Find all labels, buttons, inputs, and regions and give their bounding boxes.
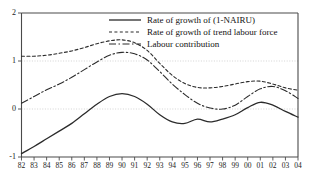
legend-line-dashdot-icon (108, 39, 142, 49)
legend-line-solid-icon (108, 15, 142, 25)
y-tick-label: 1 (2, 57, 16, 65)
legend-item-trend-labour-force: Rate of growth of trend labour force (108, 26, 298, 38)
legend-label-trend-labour-force: Rate of growth of trend labour force (147, 27, 277, 37)
x-tick-label: 04 (290, 162, 306, 170)
data-series-group (22, 40, 299, 154)
legend-item-labour-contribution: Labour contribution (108, 38, 298, 50)
legend-label-nairu: Rate of growth of (1-NAIRU) (147, 15, 255, 25)
y-tick-label: -1 (2, 153, 16, 161)
y-tick-label: 2 (2, 9, 16, 17)
legend-line-dotted-icon (108, 27, 142, 37)
series-line-0 (22, 94, 299, 154)
line-chart: 210-1 8283848586878889909192939495969798… (0, 0, 311, 181)
y-tick-label: 0 (2, 105, 16, 113)
legend-item-nairu: Rate of growth of (1-NAIRU) (108, 14, 298, 26)
legend: Rate of growth of (1-NAIRU) Rate of grow… (108, 14, 298, 50)
gridlines (22, 61, 299, 109)
legend-label-labour-contribution: Labour contribution (147, 39, 219, 49)
